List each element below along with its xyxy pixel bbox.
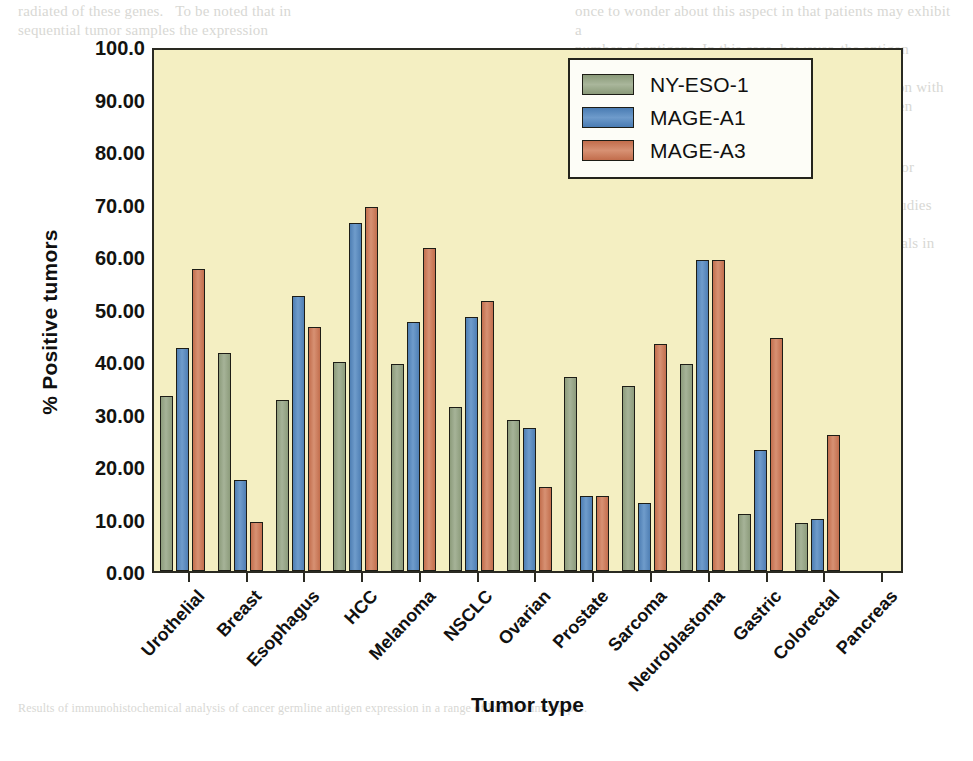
bar[interactable] — [795, 523, 808, 571]
bar[interactable] — [712, 260, 725, 571]
bar-group — [847, 50, 905, 571]
y-axis-tick-label: 70.00 — [0, 194, 163, 217]
y-axis-tick-label: 90.00 — [0, 89, 163, 112]
bar[interactable] — [176, 348, 189, 571]
bar-group — [501, 50, 559, 571]
bar-group — [154, 50, 212, 571]
bar-chart: % Positive tumors 100.090.0080.0070.0060… — [0, 0, 973, 761]
bar[interactable] — [564, 377, 577, 571]
legend-item[interactable]: MAGE-A1 — [582, 101, 801, 134]
x-axis-tick-mark — [766, 573, 768, 582]
x-axis-tick-mark — [592, 573, 594, 582]
bar[interactable] — [638, 503, 651, 571]
x-axis-tick-mark — [477, 573, 479, 582]
y-axis-tick-label: 80.00 — [0, 142, 163, 165]
bar[interactable] — [308, 327, 321, 571]
bar[interactable] — [333, 362, 346, 571]
x-axis-category-label: Pancreas — [832, 586, 902, 659]
x-axis-title: Tumor type — [152, 693, 903, 717]
bar[interactable] — [292, 296, 305, 571]
bar[interactable] — [250, 522, 263, 571]
bar[interactable] — [391, 364, 404, 571]
y-axis-tick-label: 20.00 — [0, 457, 163, 480]
x-axis-category-label: Breast — [213, 586, 267, 641]
bar[interactable] — [276, 400, 289, 571]
bar-group — [385, 50, 443, 571]
bar[interactable] — [423, 248, 436, 571]
y-axis-tick-label: 50.00 — [0, 299, 163, 322]
x-axis-category-label: Urothelial — [137, 586, 209, 661]
bar[interactable] — [539, 487, 552, 571]
bar[interactable] — [407, 322, 420, 571]
legend-item[interactable]: MAGE-A3 — [582, 134, 801, 167]
bar[interactable] — [580, 496, 593, 571]
legend-item-label: NY-ESO-1 — [650, 73, 749, 97]
x-axis-tick-mark — [246, 573, 248, 582]
bar[interactable] — [481, 301, 494, 571]
legend-item-label: MAGE-A1 — [650, 106, 746, 130]
y-axis-tick-labels: 100.090.0080.0070.0060.0050.0040.0030.00… — [0, 0, 145, 761]
bar-group — [212, 50, 270, 571]
y-axis-tick-label: 30.00 — [0, 404, 163, 427]
x-axis-tick-mark — [534, 573, 536, 582]
x-axis-category-label: Ovarian — [494, 586, 555, 649]
y-axis-tick-label: 60.00 — [0, 247, 163, 270]
bar-group — [327, 50, 385, 571]
x-axis-tick-mark — [303, 573, 305, 582]
bar[interactable] — [234, 480, 247, 571]
bar[interactable] — [738, 514, 751, 571]
x-axis-tick-mark — [361, 573, 363, 582]
bar[interactable] — [696, 260, 709, 571]
bar[interactable] — [523, 428, 536, 571]
x-axis-category-label: Gastric — [729, 586, 787, 646]
bar[interactable] — [770, 338, 783, 571]
bar[interactable] — [622, 386, 635, 571]
y-axis-tick-label: 0.00 — [0, 562, 163, 585]
bar[interactable] — [465, 317, 478, 571]
bar[interactable] — [218, 353, 231, 571]
legend-color-swatch — [582, 140, 634, 161]
x-axis-tick-mark — [650, 573, 652, 582]
y-axis-tick-label: 40.00 — [0, 352, 163, 375]
legend-item[interactable]: NY-ESO-1 — [582, 68, 801, 101]
bar[interactable] — [449, 407, 462, 571]
x-axis-tick-mark — [188, 573, 190, 582]
bar-group — [270, 50, 328, 571]
bar[interactable] — [827, 435, 840, 572]
chart-legend: NY-ESO-1MAGE-A1MAGE-A3 — [568, 58, 813, 179]
x-axis-tick-mark — [823, 573, 825, 582]
x-axis-tick-mark — [708, 573, 710, 582]
bar[interactable] — [811, 519, 824, 571]
legend-color-swatch — [582, 107, 634, 128]
x-axis-category-label: Prostate — [549, 586, 613, 653]
y-axis-tick-label: 100.0 — [0, 37, 163, 60]
y-axis-tick-label: 10.00 — [0, 509, 163, 532]
x-axis-category-label: NSCLC — [440, 586, 498, 646]
bar[interactable] — [754, 450, 767, 571]
bar[interactable] — [160, 396, 173, 571]
bar[interactable] — [365, 207, 378, 571]
bar[interactable] — [507, 420, 520, 571]
x-axis-category-label: HCC — [340, 586, 382, 629]
x-axis-tick-mark — [881, 573, 883, 582]
bar[interactable] — [192, 269, 205, 571]
legend-item-label: MAGE-A3 — [650, 139, 746, 163]
bar[interactable] — [654, 344, 667, 571]
legend-color-swatch — [582, 74, 634, 95]
bar[interactable] — [349, 223, 362, 571]
bar-group — [443, 50, 501, 571]
bar[interactable] — [596, 496, 609, 571]
x-axis-tick-mark — [419, 573, 421, 582]
bar[interactable] — [680, 364, 693, 571]
